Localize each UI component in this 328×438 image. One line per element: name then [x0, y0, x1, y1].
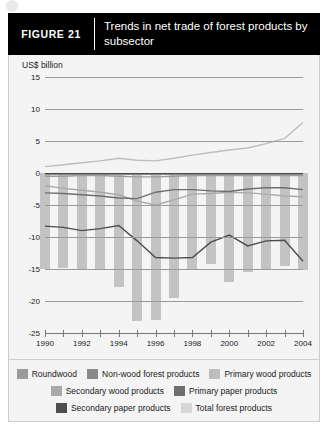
x-tick-label: 2000 — [220, 339, 238, 348]
x-axis: 19901992199419961998200020022004 — [45, 333, 303, 334]
gridline-15: 15 — [45, 77, 303, 78]
legend-swatch — [56, 403, 67, 413]
legend-swatch — [181, 403, 192, 413]
line-primary-wood-products — [45, 122, 303, 166]
y-tick-label: -20 — [28, 297, 40, 306]
legend-swatch — [17, 369, 28, 379]
legend-item-non-wood-forest-products[interactable]: Non-wood forest products — [87, 369, 199, 379]
x-tick-mark — [45, 330, 46, 337]
line-primary-paper-products — [45, 188, 303, 199]
gridline-0: 0 — [45, 173, 303, 174]
legend-row: RoundwoodNon-wood forest productsPrimary… — [9, 365, 319, 382]
y-tick-label: -15 — [28, 265, 40, 274]
legend-label: Non-wood forest products — [102, 369, 199, 379]
legend-item-secondary-paper-products[interactable]: Secondary paper products — [56, 403, 171, 413]
legend-row: Secondary paper productsTotal forest pro… — [9, 399, 319, 416]
legend-item-primary-paper-products[interactable]: Primary paper products — [174, 386, 277, 396]
x-tick-label: 1998 — [184, 339, 202, 348]
x-tick-label: 1990 — [36, 339, 54, 348]
y-tick-label: -5 — [33, 201, 40, 210]
x-tick-label: 1994 — [110, 339, 128, 348]
legend-swatch — [209, 369, 220, 379]
x-tick-mark — [156, 330, 157, 337]
legend-label: Secondary paper products — [71, 403, 171, 413]
x-tick-mark — [100, 330, 101, 337]
x-tick-mark — [174, 330, 175, 337]
x-tick-mark — [82, 330, 83, 337]
y-tick-label: 5 — [36, 137, 40, 146]
legend-item-total-forest-products[interactable]: Total forest products — [181, 403, 273, 413]
figure-header: FIGURE 21 Trends in net trade of forest … — [8, 13, 320, 55]
legend-label: Total forest products — [196, 403, 273, 413]
x-tick-mark — [211, 330, 212, 337]
legend-item-primary-wood-products[interactable]: Primary wood products — [209, 369, 311, 379]
legend-label: Primary paper products — [189, 386, 277, 396]
gridline-10: 10 — [45, 109, 303, 110]
legend-label: Secondary wood products — [66, 386, 164, 396]
figure-page: FIGURE 21 Trends in net trade of forest … — [0, 0, 328, 438]
x-tick-label: 1996 — [147, 339, 165, 348]
x-tick-label: 2004 — [294, 339, 312, 348]
y-tick-label: -10 — [28, 233, 40, 242]
x-tick-mark — [303, 330, 304, 337]
y-tick-label: -25 — [28, 329, 40, 338]
x-tick-label: 1992 — [73, 339, 91, 348]
gridline--5: -5 — [45, 205, 303, 206]
y-tick-label: 0 — [36, 169, 40, 178]
figure-title: Trends in net trade of forest products b… — [95, 13, 320, 55]
chart-legend: RoundwoodNon-wood forest productsPrimary… — [8, 360, 320, 422]
line-roundwood — [45, 176, 303, 177]
x-tick-mark — [285, 330, 286, 337]
gridline--15: -15 — [45, 269, 303, 270]
y-tick-label: 15 — [31, 73, 40, 82]
legend-label: Primary wood products — [224, 369, 311, 379]
x-tick-label: 2002 — [257, 339, 275, 348]
legend-row: Secondary wood productsPrimary paper pro… — [9, 382, 319, 399]
legend-swatch — [87, 369, 98, 379]
figure-number: FIGURE 21 — [8, 13, 94, 55]
y-axis-label: US$ billion — [22, 60, 63, 70]
gridline--10: -10 — [45, 237, 303, 238]
gridline--20: -20 — [45, 301, 303, 302]
chart-panel: US$ billion 151050-5-10-15-20-25 1990199… — [8, 55, 320, 360]
x-tick-mark — [248, 330, 249, 337]
legend-item-roundwood[interactable]: Roundwood — [17, 369, 77, 379]
x-tick-mark — [229, 330, 230, 337]
line-secondary-paper-products — [45, 225, 303, 261]
legend-swatch — [51, 386, 62, 396]
y-tick-label: 10 — [31, 105, 40, 114]
legend-label: Roundwood — [32, 369, 77, 379]
x-tick-mark — [63, 330, 64, 337]
legend-item-secondary-wood-products[interactable]: Secondary wood products — [51, 386, 164, 396]
x-tick-mark — [119, 330, 120, 337]
x-tick-mark — [266, 330, 267, 337]
x-tick-mark — [137, 330, 138, 337]
legend-swatch — [174, 386, 185, 396]
gridline-5: 5 — [45, 141, 303, 142]
x-tick-mark — [192, 330, 193, 337]
page-corner-mark — [6, 0, 18, 12]
plot-area: 151050-5-10-15-20-25 — [45, 77, 303, 333]
